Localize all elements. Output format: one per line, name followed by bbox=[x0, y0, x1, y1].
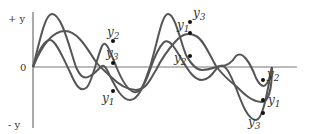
label-y2-group3: y2 bbox=[266, 67, 280, 83]
y-bottom-label: - y bbox=[8, 119, 21, 130]
point-y2-group3 bbox=[261, 78, 265, 82]
label-y3-group1: y3 bbox=[105, 46, 119, 62]
label-y1-group3: y1 bbox=[267, 93, 281, 109]
point-y1-group3 bbox=[261, 98, 265, 102]
wave-diagram: + y 0 - y y2 y3 y1 y3 y1 y2 y2 y1 y3 bbox=[0, 0, 309, 134]
origin-label: 0 bbox=[20, 62, 26, 73]
point-y2-group2 bbox=[188, 54, 192, 58]
label-y1-group1: y1 bbox=[101, 91, 115, 107]
y-top-label: + y bbox=[8, 13, 26, 24]
point-y1-group1 bbox=[111, 89, 115, 93]
label-y3-group2: y3 bbox=[192, 6, 206, 22]
label-y2-group1: y2 bbox=[106, 25, 120, 41]
wave-curve-c bbox=[33, 40, 272, 92]
point-y3-group3 bbox=[261, 111, 265, 115]
label-y1-group2: y1 bbox=[176, 18, 190, 34]
